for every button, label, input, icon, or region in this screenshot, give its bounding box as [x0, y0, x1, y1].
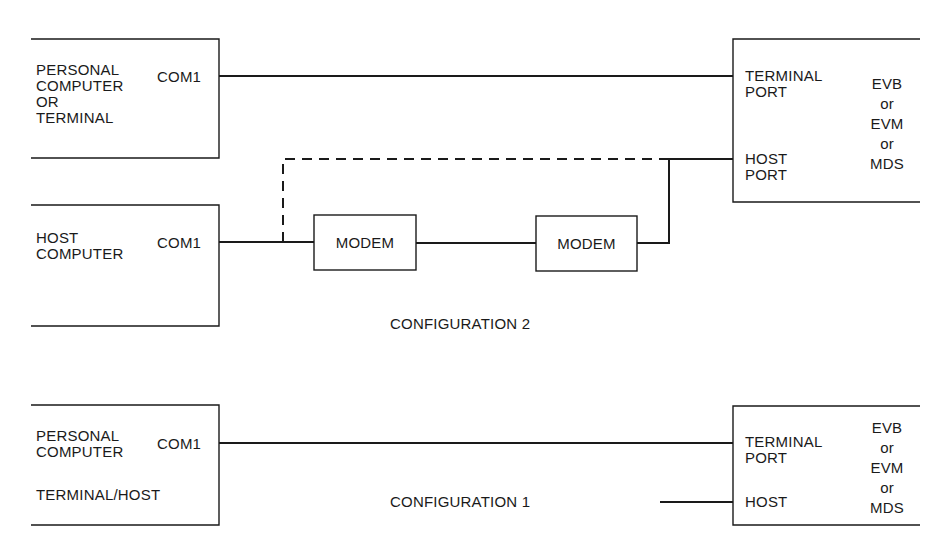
label-line: HOST	[36, 230, 123, 246]
label-line: MDS	[860, 154, 914, 174]
config2-host-com1-label: COM1	[157, 235, 201, 251]
label-line: COMPUTER	[36, 78, 123, 94]
config1-pc-com1-label: COM1	[157, 436, 201, 452]
label-line: EVM	[860, 458, 914, 478]
config1-pc-label: PERSONAL COMPUTER	[36, 428, 123, 460]
modem-1-label: MODEM	[314, 235, 416, 251]
label-line: COMPUTER	[36, 444, 123, 460]
label-line: COMPUTER	[36, 246, 123, 262]
config1-host-label: HOST	[745, 494, 787, 510]
label-line: or	[860, 478, 914, 498]
dashed-direct-link	[283, 159, 669, 242]
label-line: or	[860, 438, 914, 458]
config1-caption: CONFIGURATION 1	[390, 494, 530, 510]
label-line: HOST	[745, 151, 787, 167]
label-line: or	[860, 94, 914, 114]
config1-terminal-port-label: TERMINAL PORT	[745, 434, 822, 466]
label-line: PORT	[745, 167, 787, 183]
config1-device-label: EVB or EVM or MDS	[860, 418, 914, 518]
config2-terminal-port-label: TERMINAL PORT	[745, 68, 822, 100]
config2-device-label: EVB or EVM or MDS	[860, 74, 914, 174]
config2-host-port-label: HOST PORT	[745, 151, 787, 183]
label-line: MDS	[860, 498, 914, 518]
label-line: PERSONAL	[36, 428, 123, 444]
config2-pc-label: PERSONAL COMPUTER OR TERMINAL	[36, 62, 123, 126]
label-line: TERMINAL	[36, 110, 123, 126]
modem-2-label: MODEM	[536, 236, 637, 252]
config2-host-label: HOST COMPUTER	[36, 230, 123, 262]
config2-caption: CONFIGURATION 2	[390, 316, 530, 332]
label-line: EVB	[860, 74, 914, 94]
label-line: TERMINAL	[745, 68, 822, 84]
label-line: PORT	[745, 450, 822, 466]
label-line: PERSONAL	[36, 62, 123, 78]
label-line: OR	[36, 94, 123, 110]
diagram-canvas: PERSONAL COMPUTER OR TERMINAL COM1 HOST …	[0, 0, 952, 553]
config2-pc-com1-label: COM1	[157, 69, 201, 85]
label-line: EVB	[860, 418, 914, 438]
label-line: or	[860, 134, 914, 154]
label-line: EVM	[860, 114, 914, 134]
config1-role-label: TERMINAL/HOST	[36, 487, 160, 503]
label-line: TERMINAL	[745, 434, 822, 450]
pc-box-outline-config1	[31, 405, 219, 525]
modem-to-host-port-line	[637, 159, 733, 243]
host-box-outline	[31, 205, 219, 326]
label-line: PORT	[745, 84, 822, 100]
